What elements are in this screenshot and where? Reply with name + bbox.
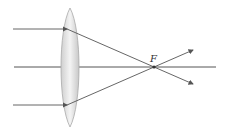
convex-lens <box>61 8 79 127</box>
refracted-ray-bottom <box>67 50 193 105</box>
refracted-ray-top <box>67 29 193 84</box>
focal-label: F <box>149 53 158 64</box>
lens-diagram: F <box>0 0 232 129</box>
focal-point <box>152 65 155 68</box>
